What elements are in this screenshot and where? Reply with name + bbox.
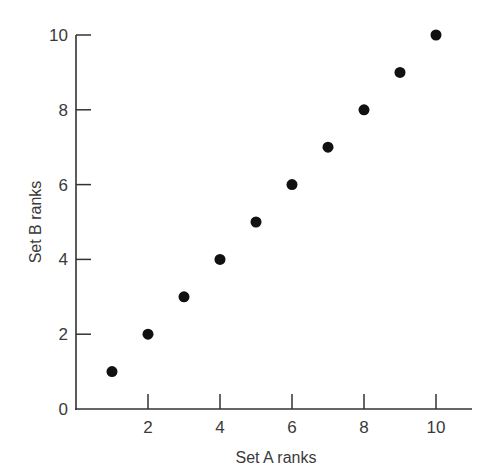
data-point — [107, 366, 118, 377]
y-tick-label: 0 — [59, 400, 68, 419]
x-tick-label: 4 — [215, 418, 224, 437]
scatter-chart: 0246810 246810 Set A ranks Set B ranks — [0, 0, 502, 475]
data-point — [215, 254, 226, 265]
y-tick-label: 2 — [59, 325, 68, 344]
x-tick-label: 6 — [287, 418, 296, 437]
y-tick-label: 8 — [59, 101, 68, 120]
data-point — [287, 179, 298, 190]
data-point — [143, 329, 154, 340]
x-tick-label: 2 — [143, 418, 152, 437]
x-tick-label: 8 — [359, 418, 368, 437]
y-tick-label: 6 — [59, 176, 68, 195]
x-axis-title: Set A ranks — [236, 449, 317, 466]
data-point — [251, 217, 262, 228]
y-tick-label: 4 — [59, 250, 68, 269]
data-point — [431, 30, 442, 41]
x-ticks: 246810 — [143, 394, 445, 437]
x-tick-label: 10 — [427, 418, 446, 437]
data-point — [323, 142, 334, 153]
y-tick-label: 10 — [49, 26, 68, 45]
y-ticks: 0246810 — [49, 26, 91, 419]
data-points — [107, 30, 442, 378]
data-point — [395, 67, 406, 78]
data-point — [179, 291, 190, 302]
data-point — [359, 104, 370, 115]
y-axis-title: Set B ranks — [27, 181, 44, 264]
axes — [75, 35, 472, 410]
